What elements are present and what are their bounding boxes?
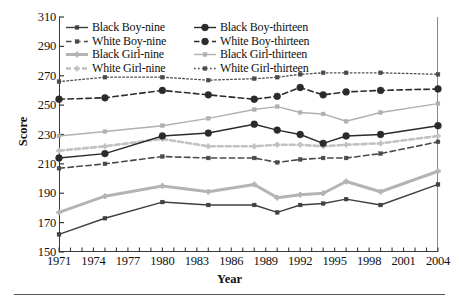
legend-item[interactable]: White Boy-thirteen — [194, 35, 366, 49]
legend-item-label: Black Girl-nine — [92, 48, 164, 62]
x-tick-label: 2001 — [391, 255, 415, 268]
x-tick-label: 1971 — [47, 255, 71, 268]
legend-line-icon — [194, 63, 216, 74]
x-tick-label: 1995 — [323, 255, 347, 268]
series-line — [56, 168, 441, 215]
legend-line-icon — [66, 36, 88, 47]
legend-item[interactable]: White Girl-nine — [66, 62, 194, 76]
legend-item-label: White Boy-nine — [92, 35, 166, 49]
y-axis-title: Score — [16, 102, 31, 162]
legend-item-label: Black Boy-thirteen — [220, 21, 308, 35]
legend-item[interactable]: Black Boy-nine — [66, 21, 194, 35]
legend-swatch — [194, 36, 216, 47]
x-tick-label: 1986 — [219, 255, 243, 268]
x-tick-label: 1992 — [288, 255, 312, 268]
legend-swatch — [66, 22, 88, 33]
legend-item[interactable]: White Girl-thirteen — [194, 62, 366, 76]
legend-item-label: Black Girl-thirteen — [220, 48, 307, 62]
legend-line-icon — [66, 22, 88, 33]
legend-line-icon — [66, 49, 88, 60]
chart-legend: Black Boy-nineBlack Boy-thirteenWhite Bo… — [66, 21, 366, 75]
legend-item[interactable]: Black Girl-thirteen — [194, 48, 366, 62]
x-tick-label: 1977 — [116, 255, 140, 268]
x-tick-label: 1998 — [357, 255, 381, 268]
x-tick-label: 1983 — [185, 255, 209, 268]
x-axis-title: Year — [0, 272, 459, 287]
legend-item[interactable]: White Boy-nine — [66, 35, 194, 49]
legend-line-icon — [194, 22, 216, 33]
legend-swatch — [66, 63, 88, 74]
series-line — [56, 121, 442, 162]
legend-item[interactable]: Black Girl-nine — [66, 48, 194, 62]
chart-figure: 150170190210230250270290310 197119741977… — [0, 0, 459, 301]
x-axis-tick-labels: 1971197419771980198319861989199219951998… — [0, 255, 459, 271]
legend-swatch — [194, 63, 216, 74]
x-tick-label: 1989 — [254, 255, 278, 268]
legend-item-label: White Boy-thirteen — [220, 35, 309, 49]
x-tick-label: 1980 — [150, 255, 174, 268]
legend-swatch — [66, 49, 88, 60]
x-tick-label: 1974 — [81, 255, 105, 268]
legend-item-label: Black Boy-nine — [92, 21, 165, 35]
legend-line-icon — [194, 49, 216, 60]
footer-rule — [14, 294, 445, 295]
legend-swatch — [66, 36, 88, 47]
legend-item-label: White Girl-nine — [92, 62, 165, 76]
legend-swatch — [194, 22, 216, 33]
series-line — [56, 84, 442, 103]
legend-line-icon — [194, 36, 216, 47]
legend-item[interactable]: Black Boy-thirteen — [194, 21, 366, 35]
x-tick-label: 2004 — [426, 255, 450, 268]
legend-item-label: White Girl-thirteen — [220, 62, 309, 76]
legend-swatch — [194, 49, 216, 60]
legend-line-icon — [66, 63, 88, 74]
